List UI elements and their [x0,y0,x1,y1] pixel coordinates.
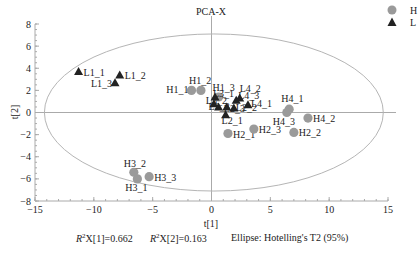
point-label: H4_3 [273,116,295,127]
chart-title: PCA-X [196,6,227,17]
point-label: H1_1 [166,84,188,95]
x-tick-label: −5 [147,204,158,215]
x-tick-label: 0 [209,204,214,215]
x-tick-label: 10 [324,204,334,215]
point-h3-3 [145,172,154,181]
point-l1-1 [74,67,83,75]
point-h4-2 [303,113,312,122]
r2x1-stat: R2X[1]=0.662 [76,232,133,244]
y-tick-label: −2 [20,129,31,140]
legend-label-l: L [410,17,416,28]
y-axis-label: t[2] [9,105,20,119]
point-label: H3_1 [125,182,147,193]
y-tick-label: −6 [20,173,31,184]
point-label: H3_2 [124,158,146,169]
point-label: H2_2 [299,127,321,138]
pca-score-plot: −15−10−505101586420−2−4−6−8 H1_1H1_2H1_3… [0,0,420,253]
legend-label-h: H [410,5,417,16]
point-label: L3_3 [209,101,230,112]
point-label: L4_3 [238,90,259,101]
y-tick-label: 8 [26,19,31,30]
point-h2-2 [289,128,298,137]
x-axis-label: t[1] [204,218,218,229]
x-tick-label: 5 [268,204,273,215]
point-label: L2_1 [222,115,243,126]
data-points: H1_1H1_2H1_3H2_1H2_2H2_3H3_1H3_2H3_3H4_1… [74,67,335,193]
y-tick-label: 6 [26,41,31,52]
point-h1-2 [196,86,205,95]
point-label: L1_1 [84,67,105,78]
point-h2-3 [249,124,258,133]
point-label: H3_3 [154,172,176,183]
x-tick-label: −10 [86,204,102,215]
y-tick-label: 2 [26,85,31,96]
point-label: H4_2 [313,113,335,124]
axes: −15−10−505101586420−2−4−6−8 [20,16,396,215]
circle-marker-icon [386,4,410,16]
triangle-marker-icon [386,16,410,28]
y-tick-label: −4 [20,151,31,162]
legend-item-l: L [386,16,417,28]
point-label: H4_1 [281,93,303,104]
point-label: L1_3 [91,78,112,89]
r2x2-stat: R2X[2]=0.163 [150,232,207,244]
y-tick-label: 0 [26,107,31,118]
legend-item-h: H [386,4,417,16]
y-tick-label: −8 [20,196,31,207]
legend: H L [386,4,417,28]
point-label: L1_2 [125,70,146,81]
ellipse-label: Ellipse: Hotelling's T2 (95%) [231,232,348,243]
point-l1-2 [115,70,124,78]
point-label: H1_2 [189,75,211,86]
x-tick-label: 15 [383,204,393,215]
point-h2-1 [223,129,232,138]
y-tick-label: 4 [26,63,31,74]
